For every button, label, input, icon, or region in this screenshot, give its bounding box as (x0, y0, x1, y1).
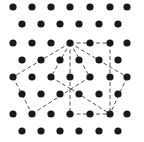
lattice-dot (28, 110, 35, 117)
lattice-dot (56, 90, 63, 97)
lattice-dot (75, 127, 82, 134)
lattice-dot (123, 3, 130, 10)
lattice-dot (95, 20, 102, 27)
lattice-dot (37, 56, 44, 63)
lattice-dot (86, 73, 93, 80)
lattice-dot (114, 20, 121, 27)
lattice-dot (114, 127, 121, 134)
lattice-dot (56, 127, 63, 134)
lattice-dot (37, 90, 44, 97)
lattice-dot (123, 73, 130, 80)
lattice-dot (86, 39, 93, 46)
lattice-dot (106, 110, 113, 117)
lattice-dot (37, 20, 44, 27)
lattice-dot (9, 3, 16, 10)
lattice-dot (28, 39, 35, 46)
lattice-dot (123, 39, 130, 46)
lattice-dot (114, 56, 121, 63)
lattice-dot (9, 73, 16, 80)
lattice-dot (106, 73, 113, 80)
lattice-dot (18, 20, 25, 27)
lattice-dot (9, 39, 16, 46)
lattice-dot (28, 3, 35, 10)
lattice-dot (114, 90, 121, 97)
lattice-dot (18, 127, 25, 134)
lattice-dot (47, 110, 54, 117)
lattice-dot (47, 73, 54, 80)
lattice-dot (47, 39, 54, 46)
lattice-dot (47, 3, 54, 10)
lattice-dot (95, 56, 102, 63)
lattice-dot (28, 73, 35, 80)
lattice-diagram (0, 0, 144, 142)
lattice-dot (86, 110, 93, 117)
lattice-dot (18, 56, 25, 63)
lattice-dot (66, 39, 73, 46)
lattice-dot (66, 110, 73, 117)
lattice-dot (66, 73, 73, 80)
lattice-dot (37, 127, 44, 134)
lattice-dot (86, 3, 93, 10)
lattice-dot (9, 110, 16, 117)
lattice-dot (75, 20, 82, 27)
lattice-dot (66, 3, 73, 10)
lattice-dot (95, 127, 102, 134)
lattice-dot (18, 90, 25, 97)
lattice-dot (106, 39, 113, 46)
lattice-dot (95, 90, 102, 97)
lattice-dot (106, 3, 113, 10)
lattice-dot (56, 20, 63, 27)
lattice-dot (56, 56, 63, 63)
lattice-dot (123, 110, 130, 117)
lattice-dot (75, 56, 82, 63)
lattice-dot (75, 90, 82, 97)
